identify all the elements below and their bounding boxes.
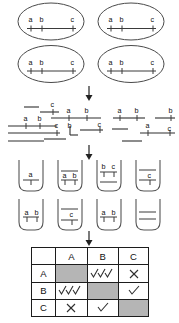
fragment-2-label-c: c (51, 100, 55, 109)
fragment-3: a b (8, 114, 57, 129)
cross-icon (66, 303, 76, 313)
pool-7-label-a: a (102, 208, 106, 217)
fragment-3-label-a: a (24, 114, 28, 123)
fragments-stage: c a b a b b a b (0, 101, 179, 147)
pool-5-label-a: a (25, 208, 29, 217)
fragment-14 (44, 139, 142, 141)
matrix-cell-c-c[interactable] (119, 299, 149, 316)
matrix-cell-c-a[interactable] (56, 299, 87, 316)
fragment-11: a c (140, 121, 175, 136)
matrix-cell-b-a[interactable] (56, 282, 87, 299)
arrow-clones-to-fragments (0, 86, 179, 102)
matrix-cell-a-b[interactable] (87, 265, 118, 282)
pool-5-outline (19, 199, 43, 230)
clone-3-label-c: c (71, 58, 75, 67)
fragment-5: a b (113, 106, 145, 121)
pools-svg: a a b b c c (0, 158, 179, 234)
matrix-corner-cell (32, 248, 56, 265)
pool-2[interactable]: a b (58, 160, 82, 191)
clone-3: a b c (18, 46, 84, 83)
matrix-row-b: B (32, 282, 149, 299)
fragment-4-label-a: a (67, 106, 71, 115)
pool-3-label-c: c (112, 162, 116, 171)
fragment-12-label-c: c (168, 124, 172, 133)
matrix-col-header-b: B (87, 248, 118, 265)
matrix-cell-b-c[interactable] (119, 282, 149, 299)
clones-svg: a b c a b c a b c (0, 0, 179, 88)
check-single-icon (128, 286, 140, 296)
clone-1-label-c: c (71, 15, 75, 24)
fragment-9: c (80, 120, 103, 133)
clone-4: a b c (98, 46, 164, 83)
fragments-svg: c a b a b b a b (0, 101, 179, 147)
fragment-6: b (68, 121, 79, 135)
pool-3-label-b: b (102, 162, 106, 171)
matrix-row-c: C (32, 299, 149, 316)
fragment-8-label-b: b (169, 106, 173, 115)
pool-3[interactable]: b c (97, 160, 121, 191)
pool-4[interactable]: c (136, 160, 160, 191)
clone-3-label-a: a (29, 58, 33, 67)
pool-5-label-b: b (35, 208, 39, 217)
fragment-11-label-a: a (146, 121, 150, 130)
pool-1[interactable]: a (19, 160, 43, 191)
clone-4-label-a: a (109, 58, 113, 67)
arrow-pools-to-matrix (0, 231, 179, 247)
clone-1-label-b: b (40, 15, 44, 24)
fragment-2: c (40, 100, 59, 115)
pool-8[interactable] (136, 199, 160, 230)
fragment-8: b (155, 106, 175, 121)
pool-1-label-a: a (29, 170, 33, 179)
pool-2-label-b: b (73, 171, 77, 180)
pool-6[interactable]: c (58, 199, 82, 230)
clone-3-label-b: b (40, 58, 44, 67)
pool-7-label-b: b (112, 208, 116, 217)
pool-5[interactable]: a b (19, 199, 43, 230)
fragment-5-label-b: b (135, 106, 139, 115)
pool-2-label-a: a (63, 171, 67, 180)
matrix-cell-a-a[interactable] (56, 265, 87, 282)
matrix-row-a: A (32, 265, 149, 282)
matrix-header-row: A B C (32, 248, 149, 265)
clone-4-label-b: b (120, 58, 124, 67)
fragment-4-label-b: b (85, 106, 89, 115)
pool-8-outline (136, 199, 160, 230)
fragment-9-label-c: c (98, 120, 102, 129)
matrix-cell-b-b[interactable] (87, 282, 118, 299)
clone-2-label-c: c (151, 15, 155, 24)
fragment-5-label-a: a (118, 106, 122, 115)
fragment-7: c (8, 121, 60, 136)
matrix-row-header-a: A (32, 265, 56, 282)
matrix-row-header-c: C (32, 299, 56, 316)
matrix-col-header-c: C (119, 248, 149, 265)
pool-4-label-c: c (148, 171, 152, 180)
clone-2-label-a: a (109, 15, 113, 24)
check-single-icon (97, 303, 109, 313)
clone-1-label-a: a (29, 15, 33, 24)
matrix-row-header-b: B (32, 282, 56, 299)
pools-stage: a a b b c c (0, 158, 179, 234)
matrix-cell-a-c[interactable] (119, 265, 149, 282)
clone-2-label-b: b (120, 15, 124, 24)
matrix-cell-c-b[interactable] (87, 299, 118, 316)
fragment-3-label-b: b (38, 114, 42, 123)
matrix-col-header-a: A (56, 248, 87, 265)
check-triple-icon (58, 286, 84, 296)
pool-7[interactable]: a b (97, 199, 121, 230)
clone-2: a b c (98, 3, 164, 40)
pool-6-label-c: c (70, 210, 74, 219)
fragment-7-label-c: c (55, 121, 59, 130)
fragment-4: a b (51, 106, 101, 121)
cross-icon (129, 269, 139, 279)
clones-stage: a b c a b c a b c (0, 0, 179, 88)
clone-4-label-c: c (151, 58, 155, 67)
arrow-3-head (86, 240, 93, 246)
clone-1: a b c (18, 3, 84, 40)
check-triple-icon (90, 269, 116, 279)
comparison-matrix: A B C A B (31, 247, 149, 317)
fragment-6-label-b: b (68, 121, 72, 130)
